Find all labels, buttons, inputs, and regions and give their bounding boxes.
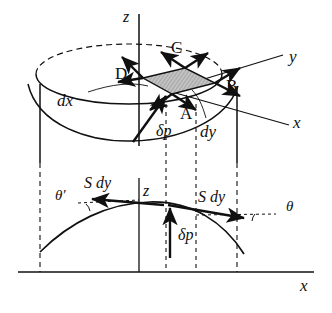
label-dy: dy: [200, 122, 216, 142]
surface-element: [143, 68, 215, 94]
axis-label-z-bottom: z: [143, 182, 149, 200]
surface-tension-figure: [0, 0, 332, 313]
label-dx: dx: [57, 91, 73, 111]
axis-label-x-bottom: x: [300, 276, 308, 296]
axis-label-y: y: [289, 47, 297, 67]
corner-label-A: A: [180, 104, 192, 124]
label-S-dy-left: S dy: [84, 174, 111, 192]
angle-arc-right: [252, 214, 255, 221]
label-delta-p-bottom: δp: [178, 226, 193, 244]
surface-profile-curve: [40, 202, 244, 254]
surface-element-patch: [143, 68, 215, 94]
corner-label-D: D: [115, 64, 127, 84]
label-theta: θ: [286, 198, 293, 215]
cylinder-top-back-arc: [36, 44, 222, 74]
tangent-guide-right: [196, 214, 276, 215]
label-delta-p-top: δp: [156, 122, 171, 140]
label-S-dy-right: S dy: [198, 188, 225, 206]
label-theta-prime: θ′: [55, 187, 66, 204]
corner-label-C: C: [171, 38, 182, 58]
arrow-C-upright: [185, 53, 208, 68]
corner-label-B: B: [226, 76, 237, 96]
angle-arc-left: [86, 204, 90, 211]
axis-label-x-top: x: [293, 113, 301, 133]
axis-label-z-top: z: [123, 8, 129, 26]
